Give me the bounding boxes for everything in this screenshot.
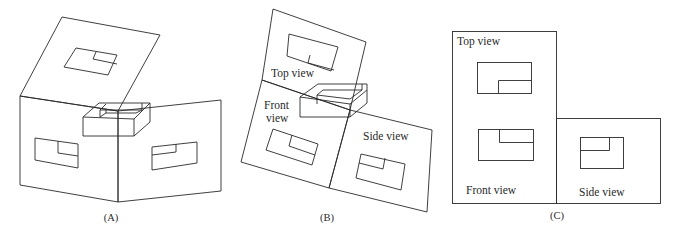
panel-c-side-view-shape: [581, 138, 624, 169]
panel-b-side-view-label: Side view: [363, 130, 409, 142]
panel-c: Top view Front view Side view (C): [453, 32, 661, 223]
panel-a-caption: (A): [104, 212, 119, 224]
panel-a-side-plane: [118, 100, 221, 202]
panel-c-side-view-label: Side view: [579, 186, 625, 198]
panel-c-caption: (C): [550, 210, 565, 222]
panel-a-front-view-shape: [35, 138, 78, 168]
panel-b-side-view-shape: [356, 154, 405, 190]
orthographic-projection-diagram: (A) Top view Front view Side view (B): [0, 0, 676, 230]
panel-c-top-view-label: Top view: [457, 35, 501, 48]
panel-c-front-view-label: Front view: [466, 184, 517, 196]
panel-b-front-view-label-line2: view: [266, 112, 289, 124]
panel-b-side-plane: [329, 110, 432, 212]
panel-c-front-view-shape: [479, 130, 534, 161]
panel-b-top-plane: [262, 9, 366, 110]
panel-a: (A): [20, 17, 221, 224]
panel-c-top-front-frame: [453, 32, 557, 204]
panel-b-top-view-shape: [287, 34, 338, 71]
panel-a-side-view-shape: [152, 142, 197, 170]
panel-b: Top view Front view Side view (B): [241, 9, 432, 224]
panel-b-top-view-label: Top view: [271, 67, 315, 80]
panel-a-top-plane: [20, 17, 160, 111]
panel-a-object: [83, 103, 150, 136]
panel-c-top-view-shape: [478, 63, 532, 94]
panel-b-front-view-label-line1: Front: [264, 99, 290, 111]
panel-b-caption: (B): [320, 212, 335, 224]
panel-a-top-view-shape: [64, 48, 117, 75]
